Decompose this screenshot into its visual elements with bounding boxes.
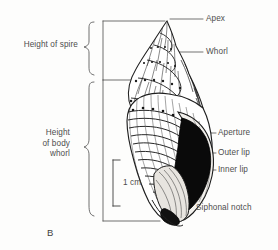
- label-height-of-body-whorl: Height of body whorl: [14, 128, 70, 160]
- label-apex: Apex: [206, 14, 225, 25]
- panel-label: B: [47, 228, 53, 239]
- label-aperture: Aperture: [218, 128, 250, 139]
- shell-anatomy-figure: Apex Whorl Aperture Outer lip Inner lip …: [0, 0, 278, 250]
- label-inner-lip: Inner lip: [218, 165, 248, 176]
- label-height-of-body-whorl-line2: of body: [14, 139, 70, 150]
- label-height-of-body-whorl-line3: whorl: [14, 149, 70, 160]
- label-scale-bar: 1 cm: [123, 178, 141, 189]
- label-outer-lip: Outer lip: [218, 148, 250, 159]
- label-height-of-body-whorl-line1: Height: [14, 128, 70, 139]
- label-siphonal-notch: Siphonal notch: [196, 203, 252, 214]
- label-whorl: Whorl: [206, 47, 228, 58]
- label-height-of-spire: Height of spire: [4, 40, 78, 51]
- scale-bar: [113, 160, 120, 206]
